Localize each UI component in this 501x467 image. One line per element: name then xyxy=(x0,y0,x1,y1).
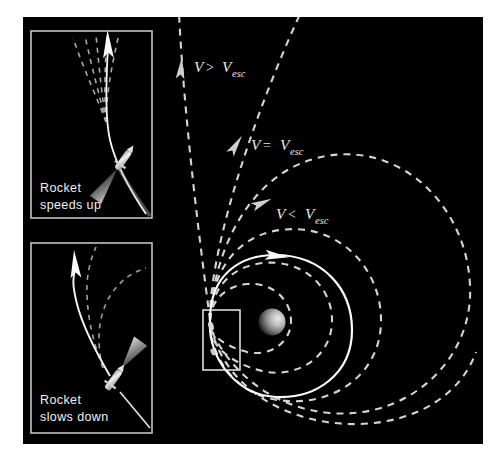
planet xyxy=(259,309,286,336)
figure-root: V > V esc V = V esc xyxy=(0,0,501,467)
inset2-caption-line2: slows down xyxy=(40,410,109,424)
label-equal-subscript: esc xyxy=(290,146,304,157)
svg-text:V: V xyxy=(194,58,205,75)
escape-velocity-figure: V > V esc V = V esc xyxy=(0,0,501,467)
svg-text:esc: esc xyxy=(290,146,304,157)
label-equal-v1: V xyxy=(251,136,262,153)
label-greater-subscript: esc xyxy=(232,68,246,79)
inset2-caption-line1: Rocket xyxy=(40,393,81,407)
label-greater-v1: V xyxy=(194,58,205,75)
inset-rocket-speeds-up: Rocket speeds up xyxy=(31,30,152,218)
inset1-caption-line2: speeds up xyxy=(40,198,101,212)
label-greater-operator: > xyxy=(206,60,214,75)
label-less-subscript: esc xyxy=(315,215,329,226)
label-equal-operator: = xyxy=(263,138,271,153)
svg-text:<: < xyxy=(288,207,296,222)
label-less-v1: V xyxy=(276,205,287,222)
svg-text:>: > xyxy=(206,60,214,75)
svg-text:esc: esc xyxy=(232,68,246,79)
svg-text:V: V xyxy=(276,205,287,222)
svg-text:V: V xyxy=(251,136,262,153)
label-less-operator: < xyxy=(288,207,296,222)
svg-text:=: = xyxy=(263,138,271,153)
svg-text:esc: esc xyxy=(315,215,329,226)
inset-rocket-slows-down: Rocket slows down xyxy=(31,243,152,433)
inset1-caption-line1: Rocket xyxy=(40,181,81,195)
